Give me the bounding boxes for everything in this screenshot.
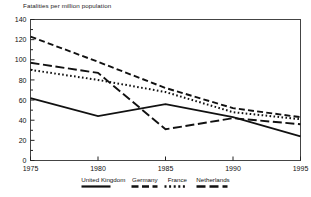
y-axis-tick-label: 0 [23,157,27,164]
long-dash-line-icon [196,184,229,189]
plot-area: 02040608010012014019751980198519901995 [0,0,311,197]
legend-entry[interactable]: United Kingdom [81,176,125,189]
axis-frame [31,20,301,161]
legend-entry[interactable]: Germany [131,176,158,189]
x-axis-tick-label: 1975 [23,165,39,172]
y-axis-tick-label: 20 [19,137,27,144]
dashed-line-icon [131,184,158,189]
y-axis-tick-label: 140 [15,16,27,23]
x-axis-tick-label: 1980 [90,165,106,172]
legend-entry[interactable]: Netherlands [196,176,229,189]
legend-label: United Kingdom [81,176,125,183]
legend-entry[interactable]: France [164,176,190,189]
legend-label: Netherlands [196,176,229,183]
chart-legend: United KingdomGermanyFranceNetherlands [0,176,311,189]
x-axis-tick-label: 1985 [158,165,174,172]
y-axis-tick-label: 100 [15,56,27,63]
line-chart: Fatalities per million population 020406… [0,0,311,197]
x-axis-tick-label: 1990 [225,165,241,172]
legend-label: France [168,176,187,183]
x-axis-tick-label: 1995 [293,165,309,172]
legend-label: Germany [132,176,157,183]
series-line-netherlands [31,63,301,129]
y-axis-tick-label: 40 [19,117,27,124]
y-axis-tick-label: 80 [19,77,27,84]
dotted-line-icon [164,184,190,189]
series-line-united-kingdom [31,98,301,136]
y-axis-tick-label: 60 [19,97,27,104]
solid-line-icon [81,184,125,189]
y-axis-tick-label: 120 [15,36,27,43]
